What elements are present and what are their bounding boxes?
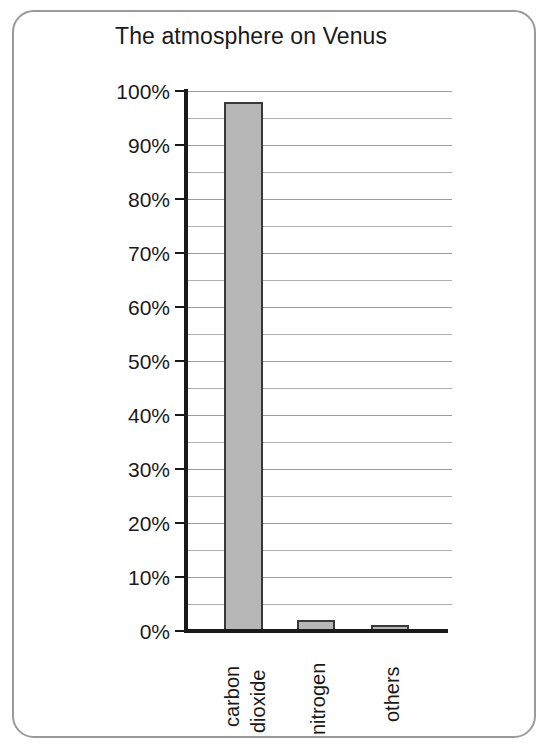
y-tick-label-20: 20% — [70, 513, 170, 534]
y-tick-70 — [175, 252, 185, 254]
x-category-label-carbon: carbon — [222, 666, 242, 727]
y-tick-30 — [175, 468, 185, 470]
y-tick-0 — [175, 630, 185, 632]
y-tick-label-80: 80% — [70, 189, 170, 210]
y-tick-80 — [175, 198, 185, 200]
y-tick-40 — [175, 414, 185, 416]
bar-carbon-dioxide — [224, 102, 263, 631]
y-tick-100 — [175, 90, 185, 92]
y-tick-label-90: 90% — [70, 135, 170, 156]
x-category-label-nitrogen: nitrogen — [308, 663, 328, 735]
y-tick-label-30: 30% — [70, 459, 170, 480]
y-tick-label-60: 60% — [70, 297, 170, 318]
y-tick-label-100: 100% — [70, 81, 170, 102]
y-tick-50 — [175, 360, 185, 362]
y-tick-label-70: 70% — [70, 243, 170, 264]
y-tick-label-0: 0% — [70, 621, 170, 642]
y-tick-10 — [175, 576, 185, 578]
x-category-label-dioxide: dioxide — [248, 670, 268, 733]
x-category-label-others: others — [382, 666, 402, 722]
y-tick-label-10: 10% — [70, 567, 170, 588]
y-tick-label-40: 40% — [70, 405, 170, 426]
x-axis-line — [184, 629, 448, 633]
y-tick-20 — [175, 522, 185, 524]
bar-chart-plot-area: 100% 90% 80% 70% 60% 50% 40% 30% 20% 10%… — [0, 0, 552, 746]
y-tick-90 — [175, 144, 185, 146]
gridline-major-100 — [188, 91, 452, 92]
y-tick-label-50: 50% — [70, 351, 170, 372]
y-tick-60 — [175, 306, 185, 308]
